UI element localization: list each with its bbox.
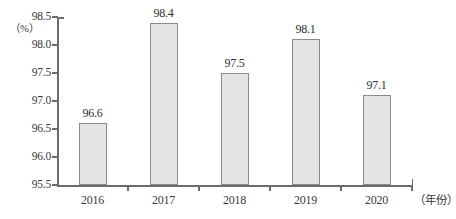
y-axis-tick-label: 98.5 [9, 11, 51, 23]
y-axis-unit-label: （%） [10, 23, 39, 35]
y-axis-tick-label-wrap: 97.5 [2, 67, 51, 79]
y-axis-top-cap [57, 17, 64, 19]
x-axis-tick [127, 186, 128, 191]
y-axis-tick [52, 44, 58, 45]
y-axis-tick-label-wrap: 96.5 [2, 123, 51, 135]
y-axis-tick-label: 96.0 [9, 151, 51, 163]
y-axis-tick-label: 95.5 [9, 179, 51, 191]
x-axis-category-label-2020: 2020 [342, 193, 412, 207]
y-axis-tick-label: 96.5 [9, 123, 51, 135]
y-axis-tick [52, 100, 58, 101]
x-axis-tick [198, 186, 199, 191]
bar-2016 [79, 123, 107, 185]
bar-chart: （%） （年份） 98.598.097.597.096.596.095.596.… [0, 0, 456, 219]
bar-2018 [221, 73, 249, 185]
bar-value-label-2018: 97.5 [200, 57, 270, 70]
x-axis-tick [269, 186, 270, 191]
y-axis-tick-label-wrap: 98.5 [2, 11, 51, 23]
x-axis-category-label-2018: 2018 [200, 193, 270, 207]
bar-2020 [363, 95, 391, 185]
x-axis-unit-label: （年份） [414, 193, 456, 207]
y-axis-tick-label-wrap: 98.0 [2, 39, 51, 51]
bar-value-label-2020: 97.1 [342, 79, 412, 92]
bar-2017 [150, 23, 178, 185]
x-axis-category-label-2016: 2016 [58, 193, 128, 207]
y-axis-tick-label: 98.0 [9, 39, 51, 51]
y-axis-tick-label: 97.0 [9, 95, 51, 107]
y-axis-tick-label-wrap: 95.5 [2, 179, 51, 191]
y-axis-tick [52, 16, 58, 17]
y-axis-tick [52, 72, 58, 73]
y-axis-tick-label-wrap: 96.0 [2, 151, 51, 163]
x-axis-category-label-2017: 2017 [129, 193, 199, 207]
x-axis-tick [340, 186, 341, 191]
x-axis-right-cap [412, 179, 414, 186]
x-axis-line [57, 185, 413, 187]
bar-value-label-2017: 98.4 [129, 7, 199, 20]
y-axis-tick-label: 97.5 [9, 67, 51, 79]
bar-value-label-2019: 98.1 [271, 23, 341, 36]
x-axis-tick [411, 186, 412, 191]
y-axis-tick-label-wrap: 97.0 [2, 95, 51, 107]
y-axis-tick [52, 128, 58, 129]
x-axis-category-label-2019: 2019 [271, 193, 341, 207]
bar-value-label-2016: 96.6 [58, 107, 128, 120]
bar-2019 [292, 39, 320, 185]
y-axis-tick [52, 184, 58, 185]
y-axis-tick [52, 156, 58, 157]
